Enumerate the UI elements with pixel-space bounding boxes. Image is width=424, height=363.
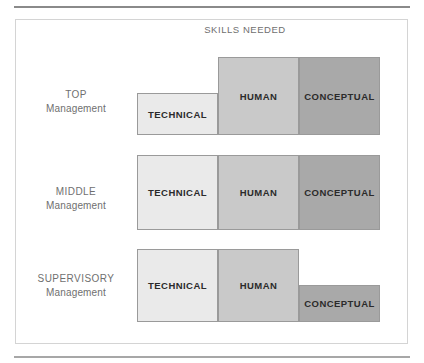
bar-middle-technical[interactable]: TECHNICAL xyxy=(137,155,218,230)
bar-label-top-conceptual: CONCEPTUAL xyxy=(304,91,374,102)
figure-root: SKILLS NEEDED TOP Management TECHNICAL H… xyxy=(0,0,424,363)
bar-top-human[interactable]: HUMAN xyxy=(218,57,299,135)
divider-rule-bottom xyxy=(14,356,410,358)
bar-top-conceptual[interactable]: CONCEPTUAL xyxy=(299,57,380,135)
bar-label-middle-technical: TECHNICAL xyxy=(148,187,207,198)
row-label-top: TOP Management xyxy=(18,88,134,116)
row-level-top: TOP xyxy=(18,88,134,102)
bar-middle-human[interactable]: HUMAN xyxy=(218,155,299,230)
bar-label-supervisory-human: HUMAN xyxy=(240,280,278,291)
bar-label-top-technical: TECHNICAL xyxy=(148,109,207,120)
row-level-suffix-middle: Management xyxy=(18,199,134,213)
bar-label-supervisory-conceptual: CONCEPTUAL xyxy=(304,298,374,309)
row-level-suffix-top: Management xyxy=(18,102,134,116)
row-level-suffix-supervisory: Management xyxy=(18,286,134,300)
plot-area: TOP Management TECHNICAL HUMAN CONCEPTUA… xyxy=(0,0,424,363)
bar-supervisory-human[interactable]: HUMAN xyxy=(218,249,299,322)
bar-supervisory-technical[interactable]: TECHNICAL xyxy=(137,249,218,322)
bar-label-middle-conceptual: CONCEPTUAL xyxy=(304,187,374,198)
bar-label-supervisory-technical: TECHNICAL xyxy=(148,280,207,291)
row-level-middle: MIDDLE xyxy=(18,185,134,199)
row-level-supervisory: SUPERVISORY xyxy=(18,272,134,286)
row-label-supervisory: SUPERVISORY Management xyxy=(18,272,134,300)
bar-label-middle-human: HUMAN xyxy=(240,187,278,198)
bar-supervisory-conceptual[interactable]: CONCEPTUAL xyxy=(299,285,380,322)
row-label-middle: MIDDLE Management xyxy=(18,185,134,213)
bar-middle-conceptual[interactable]: CONCEPTUAL xyxy=(299,155,380,230)
bar-top-technical[interactable]: TECHNICAL xyxy=(137,93,218,135)
bar-label-top-human: HUMAN xyxy=(240,91,278,102)
